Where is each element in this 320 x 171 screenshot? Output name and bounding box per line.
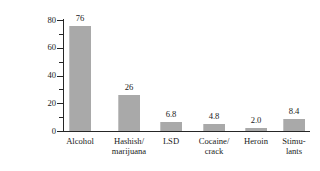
x-category-label: LSD bbox=[147, 136, 195, 146]
y-tick-label: 0 bbox=[16, 127, 56, 136]
y-tick-label: 60 bbox=[16, 43, 56, 52]
bar-chart-figure: graders using Percentage of twelfth 0204… bbox=[0, 0, 320, 171]
bar-value-label: 76 bbox=[57, 14, 103, 23]
bar bbox=[118, 95, 140, 131]
x-category-label: Alcohol bbox=[56, 136, 104, 146]
bar-value-label: 26 bbox=[106, 83, 152, 92]
bar-value-label: 8.4 bbox=[271, 107, 317, 116]
x-category-label: Stimu- lants bbox=[270, 136, 318, 157]
y-tick-label: 20 bbox=[16, 99, 56, 108]
y-tick-major bbox=[57, 131, 64, 132]
bar bbox=[203, 124, 225, 131]
y-tick-label: 80 bbox=[16, 16, 56, 25]
bar bbox=[69, 26, 91, 131]
bar-value-label: 6.8 bbox=[148, 110, 194, 119]
y-tick-label: 40 bbox=[16, 71, 56, 80]
bar bbox=[283, 119, 305, 131]
bar-value-label: 2.0 bbox=[233, 116, 279, 125]
bar-value-label: 4.8 bbox=[191, 112, 237, 121]
bar bbox=[160, 122, 182, 131]
x-axis-line bbox=[63, 131, 310, 132]
x-category-label: Cocaine/ crack bbox=[190, 136, 238, 157]
x-category-label: Hashish/ marijuana bbox=[105, 136, 153, 157]
bar bbox=[245, 128, 267, 131]
